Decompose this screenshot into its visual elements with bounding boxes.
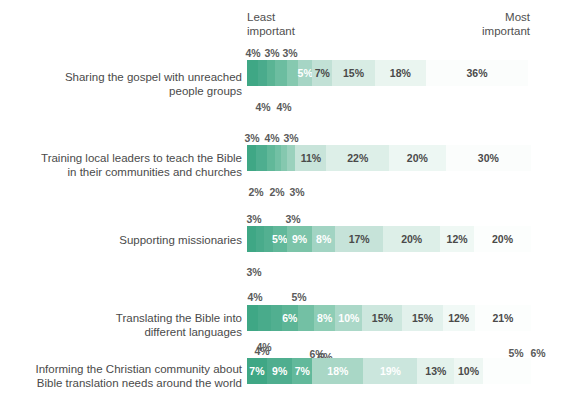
- bar-segment: [247, 60, 258, 86]
- segment-value-label: 12%: [447, 233, 468, 245]
- segment-value-label: 10%: [458, 365, 479, 377]
- segment-callout-label: 3%: [283, 132, 298, 144]
- bar-segment: 12%: [440, 226, 474, 252]
- segment-value-label: 8%: [316, 233, 331, 245]
- segment-callout-label: 4%: [247, 291, 262, 303]
- bar-segment: 20%: [383, 226, 440, 252]
- segment-value-label: 9%: [292, 233, 307, 245]
- bar-segment: 7%: [292, 358, 312, 384]
- likert-stacked-bar-chart: Least important Most important Sharing t…: [0, 0, 566, 404]
- stacked-bar: 6%8%10%15%15%12%21%: [247, 305, 531, 331]
- bar-segment: 9%: [267, 358, 293, 384]
- segment-callout-label: 4%: [264, 132, 279, 144]
- segment-value-label: 15%: [372, 312, 393, 324]
- segment-value-label: 20%: [401, 233, 422, 245]
- bar-segment: 12%: [443, 305, 475, 331]
- bar-segment: 9%: [287, 226, 313, 252]
- bar-segment: [483, 358, 531, 384]
- bar-segment: [258, 305, 271, 331]
- bar-segment: 15%: [332, 60, 375, 86]
- bar-segment: 8%: [314, 305, 335, 331]
- bar-segment: 36%: [426, 60, 528, 86]
- bar-segment: [271, 305, 282, 331]
- bar-segment: [247, 226, 256, 252]
- bar-segment: 17%: [335, 226, 383, 252]
- segment-value-label: 18%: [390, 67, 411, 79]
- row-category-label: Supporting missionaries: [12, 233, 242, 247]
- bar-segment: 18%: [375, 60, 426, 86]
- bar-segment: [267, 60, 276, 86]
- bar-segment: 20%: [389, 145, 446, 171]
- stacked-bar: 5%7%15%18%36%: [247, 60, 531, 86]
- bar-segment: 7%: [312, 60, 332, 86]
- segment-value-label: 9%: [272, 365, 287, 377]
- bar-segment: [247, 145, 256, 171]
- bar-segment: [256, 226, 265, 252]
- bar-segment: 5%: [298, 60, 312, 86]
- bar-segment: 13%: [417, 358, 454, 384]
- bar-segment: 6%: [282, 305, 298, 331]
- bar-segment: [298, 305, 314, 331]
- segment-value-label: 20%: [492, 233, 513, 245]
- segment-callout-label: 6%: [530, 347, 545, 359]
- bar-segment: 5%: [273, 226, 287, 252]
- segment-value-label: 6%: [282, 312, 297, 324]
- bar-segment: 22%: [326, 145, 388, 171]
- bar-segment: 15%: [402, 305, 442, 331]
- segment-callout-label: 4%: [256, 341, 271, 353]
- segment-value-label: 15%: [343, 67, 364, 79]
- segment-value-label: 18%: [327, 365, 348, 377]
- row-category-label: Translating the Bible into different lan…: [12, 311, 242, 339]
- segment-value-label: 19%: [380, 365, 401, 377]
- bar-segment: [258, 60, 267, 86]
- row-category-label: Training local leaders to teach the Bibl…: [12, 151, 242, 179]
- bar-segment: 19%: [363, 358, 417, 384]
- bar-segment: 7%: [247, 358, 267, 384]
- segment-callout-label: 2%: [248, 186, 263, 198]
- segment-callout-label: 3%: [285, 213, 300, 225]
- bar-segment: [287, 145, 296, 171]
- bar-segment: [275, 60, 286, 86]
- segment-value-label: 20%: [407, 152, 428, 164]
- bar-segment: [267, 145, 276, 171]
- segment-value-label: 7%: [295, 365, 310, 377]
- segment-value-label: 7%: [249, 365, 264, 377]
- bar-segment: [287, 60, 298, 86]
- bar-segment: [256, 145, 267, 171]
- segment-callout-label: 3%: [246, 266, 261, 278]
- row-category-label: Informing the Christian community about …: [12, 362, 242, 390]
- segment-value-label: 7%: [315, 67, 330, 79]
- segment-value-label: 22%: [347, 152, 368, 164]
- segment-value-label: 30%: [478, 152, 499, 164]
- axis-caption-least-important: Least important: [247, 11, 295, 38]
- segment-value-label: 5%: [298, 67, 313, 79]
- segment-callout-label: 3%: [244, 132, 259, 144]
- bar-segment: 21%: [475, 305, 531, 331]
- segment-callout-label: 5%: [291, 291, 306, 303]
- bar-segment: 20%: [474, 226, 531, 252]
- row-category-label: Sharing the gospel with unreached people…: [12, 70, 242, 98]
- segment-callout-label: 4%: [276, 101, 291, 113]
- segment-value-label: 11%: [301, 152, 321, 164]
- segment-callout-label: 3%: [289, 186, 304, 198]
- segment-callout-label: 4%: [245, 47, 260, 59]
- segment-callout-label: 5%: [508, 347, 523, 359]
- segment-callout-label: 3%: [282, 47, 297, 59]
- segment-value-label: 36%: [466, 67, 487, 79]
- bar-segment: 10%: [454, 358, 482, 384]
- bar-segment: 15%: [362, 305, 402, 331]
- segment-value-label: 10%: [338, 312, 359, 324]
- segment-callout-label: 3%: [246, 213, 261, 225]
- segment-value-label: 12%: [448, 312, 469, 324]
- segment-value-label: 17%: [349, 233, 370, 245]
- segment-callout-label: 4%: [255, 101, 270, 113]
- bar-segment: 10%: [335, 305, 362, 331]
- bar-segment: 11%: [295, 145, 326, 171]
- bar-segment: [247, 305, 258, 331]
- stacked-bar: 7%9%7%18%19%13%10%: [247, 358, 531, 384]
- segment-value-label: 8%: [317, 312, 332, 324]
- stacked-bar: 5%9%8%17%20%12%20%: [247, 226, 531, 252]
- segment-value-label: 13%: [425, 365, 446, 377]
- segment-value-label: 15%: [412, 312, 433, 324]
- segment-callout-label: 2%: [269, 186, 284, 198]
